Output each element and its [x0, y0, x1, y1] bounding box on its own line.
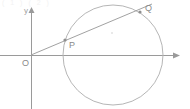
interior-mark	[111, 32, 113, 34]
point-Q-dot	[138, 10, 141, 13]
geometry-figure: ( 1 ) ( 2 ) P Q O y	[0, 0, 190, 109]
y-axis-arrow-icon	[29, 7, 35, 13]
point-Q-label: Q	[145, 3, 152, 13]
secant-ray-OPQ	[31, 4, 152, 55]
point-P-label: P	[69, 40, 75, 50]
y-axis-label: y	[24, 6, 28, 15]
x-axis-arrow-icon	[173, 53, 180, 59]
figure-canvas: P Q O y	[0, 0, 190, 109]
origin-label: O	[22, 58, 29, 68]
point-P-dot	[63, 38, 66, 41]
